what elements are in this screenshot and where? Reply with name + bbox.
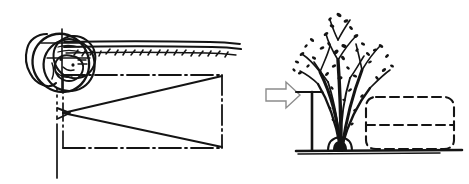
sketch-canvas: [0, 0, 469, 184]
ground-line: [296, 150, 462, 151]
sketch-figure: [0, 0, 469, 184]
eye-mark-left: [59, 57, 62, 61]
ground-line-shadow: [298, 153, 440, 154]
eye-mark-right: [71, 63, 74, 67]
